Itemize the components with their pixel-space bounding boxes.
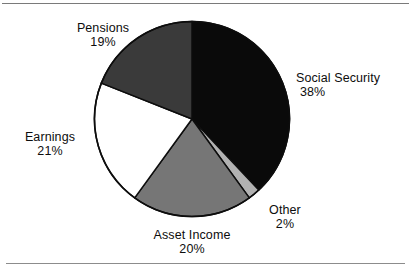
- slice-label-asset-income-percent: 20%: [130, 243, 254, 257]
- slice-label-pensions-name: Pensions: [60, 22, 146, 36]
- slice-label-pensions: Pensions 19%: [60, 22, 146, 49]
- slice-label-other-percent: 2%: [258, 218, 312, 232]
- slice-label-asset-income: Asset Income 20%: [130, 229, 254, 256]
- slice-label-earnings-percent: 21%: [10, 145, 90, 159]
- slice-label-other-name: Other: [258, 204, 312, 218]
- slice-label-social-security-percent: 38%: [296, 86, 380, 100]
- bottom-divider-rule: [6, 263, 405, 264]
- pie-chart-graphic: [93, 20, 291, 218]
- slice-label-pensions-percent: 19%: [60, 36, 146, 50]
- slice-label-earnings-name: Earnings: [10, 131, 90, 145]
- slice-label-asset-income-name: Asset Income: [130, 229, 254, 243]
- top-divider-rule: [2, 3, 409, 4]
- slice-label-earnings: Earnings 21%: [10, 131, 90, 158]
- pie-svg: [93, 20, 291, 218]
- slice-label-other: Other 2%: [258, 204, 312, 231]
- slice-label-social-security-name: Social Security: [296, 72, 380, 86]
- slice-label-social-security: Social Security 38%: [296, 72, 380, 99]
- pie-chart-figure: Social Security 38% Other 2% Asset Incom…: [0, 0, 411, 274]
